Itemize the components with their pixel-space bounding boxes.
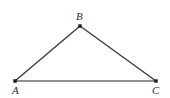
vertex-marker-c [154, 79, 157, 82]
vertex-label-c: C [152, 85, 159, 96]
edge-ab [15, 26, 80, 81]
vertex-marker-b [78, 24, 81, 27]
vertex-label-a: A [12, 85, 19, 96]
geometry-figure-canvas: B A C [0, 0, 170, 98]
vertex-label-b: B [76, 11, 83, 22]
vertex-marker-a [13, 79, 16, 82]
edge-bc [80, 26, 156, 81]
triangle-diagram [0, 0, 170, 98]
